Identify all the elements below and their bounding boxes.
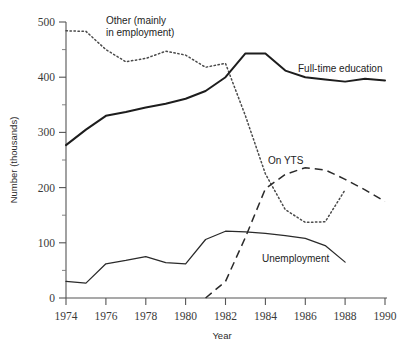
annotation-full-time-education: Full-time education	[298, 63, 382, 74]
x-tick-label-1974: 1974	[55, 310, 78, 322]
annotation-other-line1: Other (mainly	[106, 15, 166, 26]
y-tick-label-400: 400	[38, 71, 56, 83]
y-tick-label-100: 100	[38, 237, 56, 249]
y-axis-title: Number (thousands)	[8, 117, 19, 204]
x-tick-label-1986: 1986	[294, 310, 317, 322]
y-tick-label-500: 500	[38, 16, 56, 28]
chart-container: 500 400 300 200 100 0 Number (thousands)…	[0, 0, 412, 352]
chart-background	[0, 0, 412, 352]
x-tick-label-1976: 1976	[94, 310, 117, 322]
y-tick-label-0: 0	[49, 292, 55, 304]
x-tick-label-1980: 1980	[174, 310, 197, 322]
x-tick-label-1982: 1982	[214, 310, 237, 322]
y-tick-label-300: 300	[38, 126, 56, 138]
annotation-on-yts: On YTS	[268, 155, 304, 166]
x-tick-label-1984: 1984	[254, 310, 277, 322]
x-tick-label-1978: 1978	[134, 310, 157, 322]
x-axis-title: Year	[212, 330, 231, 341]
y-tick-label-200: 200	[38, 182, 56, 194]
x-tick-label-1990: 1990	[374, 310, 397, 322]
annotation-other-line2: in employment)	[106, 27, 174, 38]
annotation-unemployment: Unemployment	[262, 253, 329, 264]
x-tick-label-1988: 1988	[334, 310, 357, 322]
line-chart: 500 400 300 200 100 0 Number (thousands)…	[0, 0, 412, 352]
